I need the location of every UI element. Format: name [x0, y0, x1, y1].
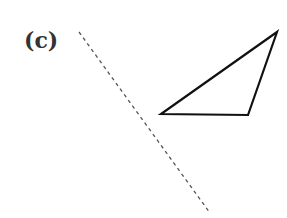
- reflection-diagram: [0, 0, 287, 218]
- triangle-shape: [161, 32, 277, 115]
- mirror-line: [79, 32, 210, 213]
